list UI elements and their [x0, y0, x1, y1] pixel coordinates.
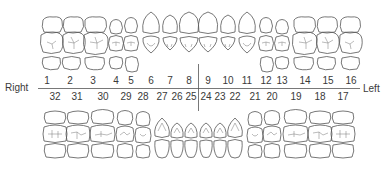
- tooth-number-16: 16: [345, 76, 356, 86]
- tooth-28: [135, 112, 151, 159]
- tooth-29: [116, 111, 134, 159]
- tooth-2: [62, 17, 85, 70]
- tooth-number-1: 1: [44, 76, 50, 86]
- tooth-number-23: 23: [214, 92, 225, 102]
- tooth-22: [228, 118, 243, 158]
- tooth-5: [124, 18, 139, 73]
- tooth-14: [292, 17, 317, 70]
- tooth-number-7: 7: [167, 76, 173, 86]
- tooth-number-15: 15: [322, 76, 333, 86]
- tooth-number-25: 25: [185, 92, 196, 102]
- tooth-16: [339, 17, 362, 70]
- tooth-number-27: 27: [156, 92, 167, 102]
- right-label: Right: [5, 83, 28, 93]
- tooth-number-20: 20: [266, 92, 277, 102]
- tooth-number-9: 9: [205, 76, 211, 86]
- tooth-number-14: 14: [299, 76, 310, 86]
- tooth-number-11: 11: [242, 76, 252, 86]
- tooth-number-29: 29: [120, 92, 131, 102]
- tooth-10: [221, 15, 236, 50]
- tooth-number-32: 32: [49, 92, 60, 102]
- tooth-number-10: 10: [222, 76, 233, 86]
- tooth-number-12: 12: [260, 76, 271, 86]
- dental-chart: Right Left 1 2 3 4 5 6 7 8 9 10 11 12 13…: [0, 0, 392, 176]
- tooth-20: [263, 111, 281, 159]
- tooth-number-2: 2: [67, 76, 73, 86]
- tooth-13: [275, 20, 290, 70]
- tooth-3: [83, 17, 108, 70]
- tooth-number-22: 22: [229, 92, 240, 102]
- tooth-number-6: 6: [148, 76, 154, 86]
- tooth-number-21: 21: [249, 92, 260, 102]
- tooth-25: [185, 123, 197, 158]
- tooth-number-26: 26: [171, 92, 182, 102]
- tooth-15: [316, 17, 339, 70]
- tooth-number-31: 31: [71, 92, 82, 102]
- tooth-21: [247, 112, 263, 159]
- tooth-9: [198, 12, 217, 52]
- tooth-number-19: 19: [290, 92, 301, 102]
- tooth-30: [90, 110, 115, 159]
- tooth-17: [331, 111, 355, 158]
- tooth-19: [283, 110, 308, 159]
- tooth-number-17: 17: [337, 92, 348, 102]
- tooth-32: [43, 111, 67, 158]
- tooth-number-13: 13: [276, 76, 287, 86]
- tooth-26: [171, 123, 183, 158]
- tooth-number-30: 30: [97, 92, 108, 102]
- tooth-11: [239, 12, 256, 53]
- tooth-number-18: 18: [314, 92, 325, 102]
- tooth-number-24: 24: [200, 92, 211, 102]
- tooth-23: [214, 123, 226, 158]
- tooth-27: [155, 118, 170, 158]
- tooth-4: [109, 20, 124, 70]
- tooth-number-3: 3: [90, 76, 96, 86]
- upper-arch: [40, 12, 362, 72]
- tooth-8: [179, 12, 198, 52]
- tooth-6: [143, 12, 160, 53]
- teeth-illustration: [0, 0, 392, 176]
- tooth-number-8: 8: [186, 76, 192, 86]
- tooth-1: [40, 17, 63, 70]
- tooth-24: [200, 123, 212, 158]
- tooth-31: [66, 111, 90, 158]
- tooth-number-4: 4: [113, 76, 119, 86]
- tooth-number-5: 5: [128, 76, 134, 86]
- tooth-12: [259, 18, 274, 73]
- lower-arch: [43, 110, 355, 159]
- tooth-7: [163, 15, 178, 50]
- tooth-18: [308, 111, 332, 158]
- tooth-number-28: 28: [137, 92, 148, 102]
- left-label: Left: [363, 84, 380, 94]
